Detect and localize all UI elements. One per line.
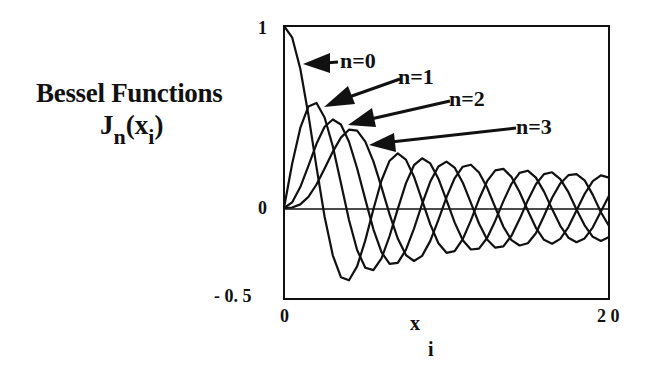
arrow-n3: n=3 (369, 114, 552, 152)
curve-n2 (284, 120, 609, 264)
curves (284, 26, 609, 280)
annotation-arrows: n=0 n=1 n=2 n=3 (303, 48, 552, 152)
curve-n1 (284, 103, 609, 270)
plot-area: n=0 n=1 n=2 n=3 (0, 0, 649, 384)
arrow-n0: n=0 (303, 48, 376, 73)
label-n3: n=3 (516, 114, 552, 139)
label-n0: n=0 (340, 48, 376, 73)
arrow-n2: n=2 (348, 86, 485, 127)
label-n1: n=1 (398, 64, 434, 89)
label-n2: n=2 (449, 86, 485, 111)
